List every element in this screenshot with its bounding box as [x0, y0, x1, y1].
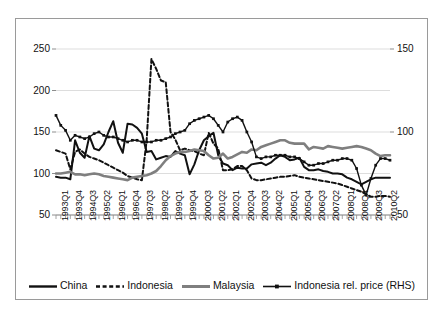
series-marker-3 — [126, 141, 129, 144]
series-marker-3 — [255, 156, 258, 159]
legend-item[interactable]: Indonesia rel. price (RHS) — [263, 279, 415, 291]
series-marker-3 — [265, 156, 268, 159]
series-marker-3 — [188, 122, 191, 125]
x-axis-label: 2004Q2 — [274, 190, 284, 221]
legend-label: Malaysia — [213, 279, 254, 291]
x-axis-label: 2008Q1 — [346, 190, 356, 221]
series-marker-3 — [274, 154, 277, 157]
series-marker-3 — [331, 159, 334, 162]
series-marker-3 — [169, 136, 172, 139]
series-marker-3 — [298, 157, 301, 160]
legend-label: Indonesia rel. price (RHS) — [294, 279, 415, 291]
x-axis-label: 2008Q4 — [360, 190, 370, 221]
series-marker-3 — [64, 129, 67, 132]
x-axis-label: 1997Q3 — [145, 190, 155, 221]
x-axis-label: 2006Q3 — [317, 190, 327, 221]
series-marker-3 — [346, 157, 349, 160]
series-marker-3 — [279, 154, 282, 157]
series-marker-3 — [226, 121, 229, 124]
series-marker-3 — [341, 157, 344, 160]
x-axis-label: 1995Q2 — [102, 190, 112, 221]
series-marker-3 — [222, 131, 225, 134]
legend-label: China — [60, 279, 87, 291]
series-marker-3 — [327, 161, 330, 164]
series-marker-3 — [317, 162, 320, 165]
series-marker-3 — [93, 132, 96, 135]
series-marker-3 — [74, 134, 77, 137]
x-axis-label: 2002Q1 — [231, 190, 241, 221]
y2-axis-label: 150 — [397, 43, 414, 54]
series-marker-3 — [69, 139, 72, 142]
series-marker-3 — [207, 114, 210, 117]
x-axis-label: 2007Q2 — [331, 190, 341, 221]
series-marker-3 — [174, 132, 177, 135]
series-marker-3 — [236, 116, 239, 119]
series-marker-3 — [141, 141, 144, 144]
y-axis-label: 150 — [22, 126, 50, 137]
y-axis-label: 50 — [22, 209, 50, 220]
series-marker-3 — [217, 124, 220, 127]
series-marker-3 — [293, 156, 296, 159]
series-marker-3 — [164, 137, 167, 140]
series-marker-3 — [212, 117, 215, 120]
x-axis-label: 1994Q3 — [88, 190, 98, 221]
series-marker-3 — [193, 119, 196, 122]
series-marker-3 — [246, 131, 249, 134]
x-axis-label: 1996Q4 — [131, 190, 141, 221]
x-axis-label: 2000Q3 — [203, 190, 213, 221]
y-axis-label: 200 — [22, 85, 50, 96]
series-marker-3 — [389, 159, 392, 162]
series-marker-3 — [284, 154, 287, 157]
series-marker-3 — [203, 116, 206, 119]
series-marker-3 — [312, 164, 315, 167]
series-marker-3 — [198, 117, 201, 120]
series-marker-3 — [117, 137, 120, 140]
x-axis-label: 2003Q3 — [260, 190, 270, 221]
series-marker-3 — [59, 124, 62, 127]
x-axis-label: 2010Q2 — [389, 190, 399, 221]
series-marker-3 — [241, 119, 244, 122]
legend-label: Indonesia — [127, 279, 173, 291]
series-marker-3 — [155, 139, 158, 142]
x-axis-label: 1993Q1 — [60, 190, 70, 221]
series-marker-3 — [308, 164, 311, 167]
series-marker-3 — [55, 114, 58, 117]
line-chart — [0, 0, 442, 319]
series-marker-3 — [355, 167, 358, 170]
x-axis-label: 1998Q2 — [160, 190, 170, 221]
x-axis-label: 1999Q1 — [174, 190, 184, 221]
series-marker-3 — [350, 159, 353, 162]
x-axis-label: 1993Q4 — [74, 190, 84, 221]
legend-key-icon — [263, 281, 291, 290]
series-marker-3 — [322, 162, 325, 165]
x-axis-label: 1996Q1 — [117, 190, 127, 221]
series-marker-3 — [160, 139, 163, 142]
series-marker-3 — [250, 141, 253, 144]
legend-item[interactable]: Indonesia — [96, 279, 173, 291]
series-marker-3 — [107, 136, 110, 139]
series-marker-3 — [288, 156, 291, 159]
series-marker-3 — [384, 157, 387, 160]
series-marker-3 — [102, 134, 105, 137]
legend-item[interactable]: China — [29, 279, 87, 291]
series-marker-3 — [179, 131, 182, 134]
chart-legend: ChinaIndonesiaMalaysiaIndonesia rel. pri… — [22, 276, 422, 294]
series-marker-3 — [374, 164, 377, 167]
series-marker-3 — [260, 157, 263, 160]
series-marker-3 — [336, 159, 339, 162]
y2-axis-label: 100 — [397, 126, 414, 137]
series-marker-3 — [121, 139, 124, 142]
legend-item[interactable]: Malaysia — [182, 279, 254, 291]
series-marker-3 — [145, 141, 148, 144]
x-axis-label: 2002Q4 — [246, 190, 256, 221]
series-marker-3 — [231, 117, 234, 120]
series-marker-3 — [83, 137, 86, 140]
series-marker-3 — [136, 139, 139, 142]
series-marker-3 — [79, 136, 82, 139]
series-marker-3 — [303, 161, 306, 164]
legend-key-icon — [29, 281, 57, 290]
series-marker-3 — [379, 157, 382, 160]
series-marker-3 — [131, 139, 134, 142]
series-marker-3 — [98, 131, 101, 134]
x-axis-label: 2005Q4 — [303, 190, 313, 221]
